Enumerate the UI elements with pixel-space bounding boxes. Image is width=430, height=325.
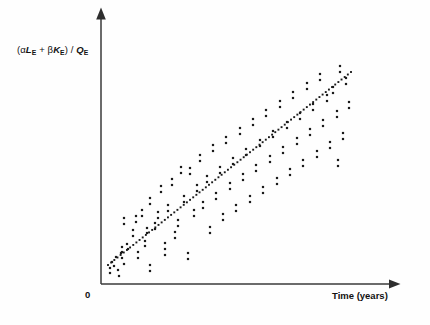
scatter-point — [289, 168, 291, 170]
trend-line-dot — [350, 71, 352, 73]
scatter-point — [276, 177, 278, 179]
scatter-point — [160, 185, 162, 187]
scatter-point — [206, 181, 208, 183]
scatter-point — [282, 146, 284, 148]
scatter-point — [123, 223, 125, 225]
scatter-point — [202, 201, 204, 203]
scatter-point — [336, 110, 338, 112]
trend-line-dot — [309, 104, 311, 106]
scatter-plot-figure: (αLE + βKE) / QE Time (years) 0 — [0, 0, 430, 325]
scatter-point — [262, 186, 264, 188]
trend-line-dot — [208, 184, 210, 186]
trend-line-dot — [322, 94, 324, 96]
trend-line-dot — [274, 131, 276, 133]
trend-line-dot — [290, 119, 292, 121]
scatter-point — [189, 173, 191, 175]
scatter-point — [319, 73, 321, 75]
scatter-point — [144, 245, 146, 247]
scatter-point — [199, 160, 201, 162]
scatter-point — [167, 210, 169, 212]
scatter-point — [326, 100, 328, 102]
trend-line-dot — [312, 101, 314, 103]
scatter-point — [209, 232, 211, 234]
scatter-point — [309, 128, 311, 130]
y-label-L: L — [26, 44, 32, 55]
trend-line-dot — [227, 169, 229, 171]
scatter-point — [215, 198, 217, 200]
trend-line-dot — [214, 179, 216, 181]
trend-line-dot — [281, 126, 283, 128]
scatter-point — [222, 213, 224, 215]
scatter-point — [157, 211, 159, 213]
scatter-point — [279, 100, 281, 102]
scatter-point — [306, 88, 308, 90]
scatter-point — [117, 269, 119, 271]
scatter-point — [332, 92, 334, 94]
trend-line-dot — [199, 191, 201, 193]
trend-line-dot — [268, 136, 270, 138]
scatter-point — [141, 215, 143, 217]
y-label-sub-e3: E — [84, 49, 89, 56]
trend-line-dot — [224, 171, 226, 173]
scatter-point — [345, 83, 347, 85]
trend-line-dot — [151, 229, 153, 231]
origin-label: 0 — [85, 289, 90, 300]
trend-line-dot — [170, 214, 172, 216]
scatter-point — [242, 179, 244, 181]
axes-group — [101, 18, 390, 284]
scatter-point — [212, 150, 214, 152]
trend-line-dot — [142, 236, 144, 238]
scatter-point — [292, 91, 294, 93]
scatter-points — [109, 65, 350, 277]
scatter-point — [296, 137, 298, 139]
scatter-point — [322, 125, 324, 127]
scatter-point — [164, 242, 166, 244]
scatter-point — [180, 172, 182, 174]
scatter-point — [183, 195, 185, 197]
scatter-point — [299, 112, 301, 114]
scatter-point — [259, 145, 261, 147]
trend-line — [107, 71, 352, 266]
scatter-point — [239, 127, 241, 129]
scatter-point — [269, 161, 271, 163]
scatter-point — [229, 188, 231, 190]
trend-line-dot — [230, 166, 232, 168]
scatter-point — [123, 217, 125, 219]
scatter-point — [177, 219, 179, 221]
trend-line-dot — [271, 134, 273, 136]
trend-line-dot — [183, 204, 185, 206]
scatter-point — [196, 184, 198, 186]
trend-line-dot — [173, 211, 175, 213]
scatter-point — [272, 136, 274, 138]
scatter-point — [121, 246, 123, 248]
trend-line-dot — [167, 216, 169, 218]
scatter-point — [232, 157, 234, 159]
trend-line-dot — [180, 206, 182, 208]
trend-line-dot — [164, 219, 166, 221]
trend-line-dot — [334, 84, 336, 86]
scatter-point — [164, 254, 166, 256]
trend-line-dot — [255, 146, 257, 148]
y-label-slash: / — [68, 44, 76, 55]
scatter-point — [262, 192, 264, 194]
trend-line-dot — [186, 201, 188, 203]
trend-line-dot — [296, 114, 298, 116]
y-label-sub-e2: E — [60, 49, 65, 56]
scatter-point — [154, 228, 156, 230]
trend-line-dot — [325, 91, 327, 93]
trend-line-dot — [240, 159, 242, 161]
scatter-point — [272, 130, 274, 132]
scatter-point — [187, 252, 189, 254]
scatter-point — [206, 175, 208, 177]
scatter-point — [215, 192, 217, 194]
trend-line-dot — [337, 81, 339, 83]
scatter-point — [322, 119, 324, 121]
scatter-point — [252, 118, 254, 120]
scatter-point — [222, 219, 224, 221]
scatter-point — [286, 121, 288, 123]
trend-line-dot — [328, 89, 330, 91]
trend-line-dot — [318, 96, 320, 98]
scatter-point — [146, 232, 148, 234]
scatter-point — [235, 204, 237, 206]
scatter-point — [279, 106, 281, 108]
